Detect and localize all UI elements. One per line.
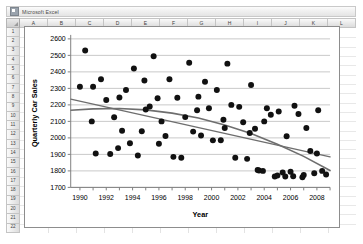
data-point <box>131 66 137 72</box>
data-point <box>123 87 129 93</box>
x-tick-label: 2002 <box>230 194 246 201</box>
row-header-column: 12345678910111213141516171819202122 <box>6 28 20 233</box>
data-point <box>214 87 220 93</box>
data-point <box>98 76 104 82</box>
data-point <box>93 151 99 157</box>
x-axis-title: Year <box>193 210 209 219</box>
data-point <box>178 155 184 161</box>
row-header-6[interactable]: 6 <box>6 75 20 84</box>
scatter-chart[interactable]: 1700180019002000210022002300240025002600… <box>25 27 339 227</box>
row-header-2[interactable]: 2 <box>6 37 20 46</box>
x-tick-label: 1990 <box>72 194 88 201</box>
row-header-11[interactable]: 11 <box>6 121 20 130</box>
data-point <box>276 109 282 115</box>
row-header-16[interactable]: 16 <box>6 168 20 177</box>
data-point <box>261 118 267 124</box>
data-point <box>107 151 113 157</box>
data-point <box>147 104 153 110</box>
data-point <box>190 129 196 135</box>
data-point <box>116 94 122 100</box>
data-point <box>89 118 95 124</box>
data-point <box>111 114 117 120</box>
y-tick-label: 1900 <box>50 151 66 158</box>
data-point <box>174 95 180 101</box>
data-point <box>236 104 242 110</box>
data-point <box>323 172 329 178</box>
data-point <box>127 140 133 146</box>
y-tick-label: 1800 <box>50 167 66 174</box>
data-point <box>135 153 141 159</box>
excel-logo-icon <box>10 7 19 16</box>
data-point <box>260 168 266 174</box>
data-point <box>195 94 201 100</box>
row-header-7[interactable]: 7 <box>6 84 20 93</box>
data-point <box>224 61 230 67</box>
data-point <box>274 173 280 179</box>
data-point <box>244 156 250 162</box>
data-point <box>156 141 162 147</box>
row-header-8[interactable]: 8 <box>6 93 20 102</box>
x-tick-label: 1998 <box>178 194 194 201</box>
row-header-12[interactable]: 12 <box>6 130 20 139</box>
x-tick-label: 2000 <box>204 194 220 201</box>
data-point <box>290 173 296 179</box>
row-header-3[interactable]: 3 <box>6 47 20 56</box>
chart-object[interactable]: 1700180019002000210022002300240025002600… <box>24 26 340 228</box>
data-point <box>186 60 192 66</box>
data-point <box>182 114 188 120</box>
data-point <box>268 112 274 118</box>
row-header-21[interactable]: 21 <box>6 214 20 223</box>
y-tick-label: 2400 <box>50 68 66 75</box>
data-point <box>159 118 165 124</box>
data-point <box>247 130 253 136</box>
row-header-4[interactable]: 4 <box>6 56 20 65</box>
y-tick-label: 2600 <box>50 35 66 42</box>
row-header-20[interactable]: 20 <box>6 205 20 214</box>
data-point <box>210 137 216 143</box>
data-point <box>303 125 309 131</box>
y-tick-label: 2000 <box>50 134 66 141</box>
data-point <box>115 145 121 151</box>
row-header-5[interactable]: 5 <box>6 65 20 74</box>
window-title: Microsoft Excel <box>22 9 59 15</box>
x-tick-label: 1992 <box>99 194 115 201</box>
data-point <box>151 53 157 59</box>
data-point <box>282 174 288 180</box>
x-tick-label: 2004 <box>256 194 272 201</box>
data-point <box>220 117 226 123</box>
row-header-19[interactable]: 19 <box>6 196 20 205</box>
data-point <box>141 77 147 83</box>
data-point <box>77 84 83 90</box>
data-point <box>284 133 290 139</box>
data-point <box>82 47 88 53</box>
row-header-9[interactable]: 9 <box>6 103 20 112</box>
data-point <box>119 128 125 134</box>
y-tick-label: 1700 <box>50 184 66 191</box>
data-point <box>315 107 321 113</box>
excel-window: Microsoft Excel A B C D E F G H I J K L … <box>0 0 363 244</box>
row-header-14[interactable]: 14 <box>6 149 20 158</box>
data-point <box>155 95 161 101</box>
data-point <box>228 102 234 108</box>
data-point <box>163 133 169 139</box>
row-header-10[interactable]: 10 <box>6 112 20 121</box>
row-header-1[interactable]: 1 <box>6 28 20 37</box>
row-header-17[interactable]: 17 <box>6 177 20 186</box>
data-point <box>202 79 208 85</box>
row-header-18[interactable]: 18 <box>6 186 20 195</box>
x-tick-label: 2008 <box>309 194 325 201</box>
data-point <box>252 126 258 132</box>
row-header-13[interactable]: 13 <box>6 140 20 149</box>
data-point <box>311 170 317 176</box>
data-point <box>314 151 320 157</box>
y-axis-title: Quarterly Car Sales <box>30 79 39 147</box>
data-point <box>206 105 212 111</box>
data-point <box>218 137 224 143</box>
row-header-22[interactable]: 22 <box>6 224 20 233</box>
row-header-15[interactable]: 15 <box>6 158 20 167</box>
select-all-corner-icon[interactable] <box>6 18 20 28</box>
y-tick-label: 2100 <box>50 118 66 125</box>
data-point <box>292 103 298 109</box>
data-point <box>295 111 301 117</box>
data-point <box>103 97 109 103</box>
